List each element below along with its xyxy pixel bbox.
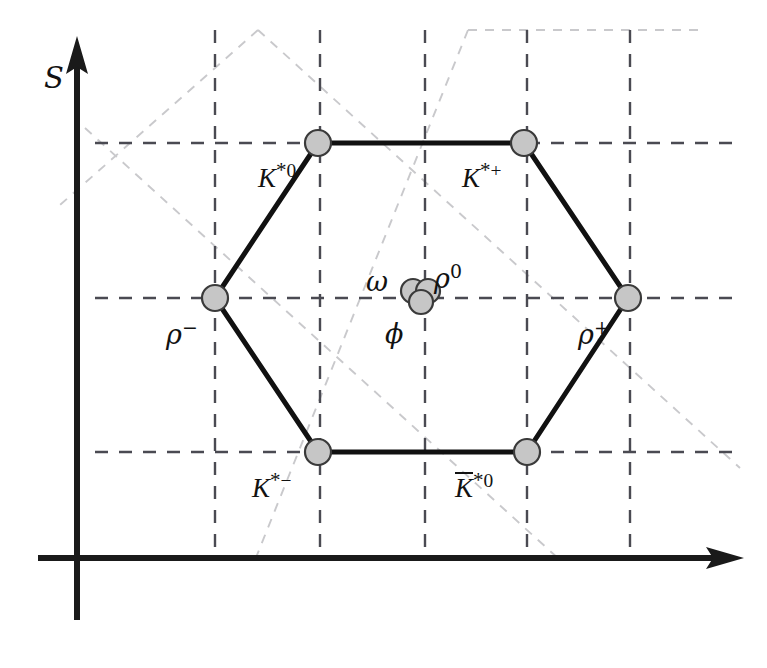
node-marker-Kstar0[interactable]: [305, 130, 331, 156]
diagram-canvas: [0, 0, 767, 668]
node-label-phi: ϕ: [385, 320, 403, 347]
node-marker-Kstarminus[interactable]: [305, 439, 331, 465]
node-marker-rhominus[interactable]: [202, 285, 228, 311]
node-label-Kstarminus: K*−: [252, 470, 292, 502]
diagonal-guide-line-2: [60, 30, 258, 205]
strangeness-axis-label: S: [44, 64, 64, 93]
diagonal-guide-line-1: [258, 30, 740, 468]
node-marker-Kstarplus[interactable]: [511, 130, 537, 156]
hexagon-edge-Kstarminus-to-rhominus: [215, 298, 318, 452]
node-marker-phi[interactable]: [409, 290, 433, 314]
hexagon-edge-Kstarplus-to-rhoplus: [524, 143, 628, 298]
node-marker-Kbarstar0[interactable]: [514, 439, 540, 465]
node-marker-rhoplus[interactable]: [615, 285, 641, 311]
node-label-rho0: ρ0: [434, 262, 462, 292]
node-label-Kbarstar0: K*0: [455, 470, 494, 502]
node-label-rhominus: ρ−: [166, 318, 198, 348]
node-label-omega: ω: [366, 268, 388, 295]
node-label-rhoplus: ρ+: [578, 318, 610, 348]
node-label-Kstarplus: K*+: [462, 160, 502, 192]
node-label-Kstar0: K*0: [258, 160, 297, 192]
vector-meson-nonet-figure: S K*0K*+ρ+K*0K*−ρ−ωρ0ϕ: [0, 0, 767, 668]
